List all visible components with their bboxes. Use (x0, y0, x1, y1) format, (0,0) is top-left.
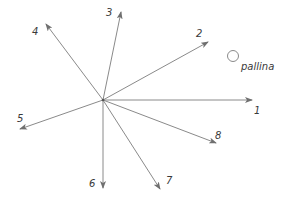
arrow-2 (103, 42, 208, 100)
arrow-label-5: 5 (17, 113, 23, 124)
arrow-label-3: 3 (106, 7, 112, 18)
origin-point (102, 99, 105, 102)
pallina-circle (228, 51, 239, 62)
arrow-label-7: 7 (166, 175, 173, 186)
arrow-label-8: 8 (215, 130, 221, 141)
arrow-label-1: 1 (254, 105, 260, 116)
arrow-7 (103, 100, 160, 189)
arrow-3 (103, 12, 121, 100)
vector-diagram: 12345678 pallina (0, 0, 290, 203)
arrow-5 (20, 100, 103, 129)
arrow-8 (103, 100, 216, 143)
arrow-label-2: 2 (196, 28, 202, 39)
arrow-label-4: 4 (32, 26, 38, 37)
pallina-label: pallina (240, 61, 274, 72)
arrow-label-6: 6 (89, 178, 95, 189)
arrow-group: 12345678 (17, 7, 260, 189)
arrow-4 (46, 24, 103, 100)
